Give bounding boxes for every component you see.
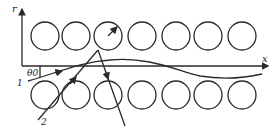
radius-arrow bbox=[108, 27, 117, 36]
reflected-ray bbox=[98, 50, 125, 126]
ray-2-label: 2 bbox=[40, 117, 47, 127]
channel-diagram: r x θ0 1 2 bbox=[0, 0, 276, 131]
r-axis-label: r bbox=[12, 3, 18, 14]
bottom-row-circles bbox=[31, 81, 256, 109]
top-row-circles bbox=[31, 22, 256, 50]
ray-1-label: 1 bbox=[17, 78, 23, 88]
angle-label: θ0 bbox=[27, 68, 38, 78]
ray-2 bbox=[38, 50, 98, 120]
x-axis-label: x bbox=[262, 53, 268, 64]
trajectory-curve bbox=[28, 59, 262, 81]
